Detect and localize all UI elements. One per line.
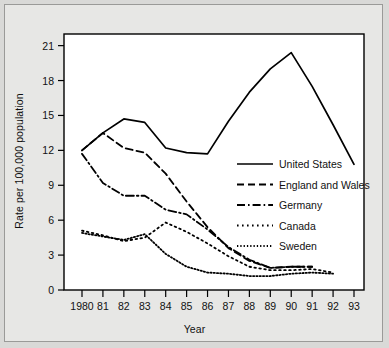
x-tick-label: 87: [223, 300, 235, 312]
x-tick-label: 89: [264, 300, 276, 312]
x-tick-label: 86: [202, 300, 214, 312]
y-axis-ticks: 036912151821: [42, 40, 64, 296]
x-tick-label: 91: [306, 300, 318, 312]
y-tick-label: 9: [48, 179, 54, 191]
x-tick-label: 88: [244, 300, 256, 312]
x-axis-ticks: 198081828384858687888990919293: [70, 290, 360, 312]
legend-label-germany: Germany: [279, 199, 323, 211]
x-tick-label: 83: [139, 300, 151, 312]
x-tick-label: 92: [327, 300, 339, 312]
x-tick-label: 81: [97, 300, 109, 312]
y-tick-label: 18: [42, 75, 54, 87]
x-tick-label: 93: [348, 300, 360, 312]
x-tick-label: 82: [118, 300, 130, 312]
y-tick-label: 0: [48, 284, 54, 296]
legend-label-england-and-wales: England and Wales: [279, 179, 370, 191]
y-tick-label: 21: [42, 40, 54, 52]
x-tick-label: 1980: [70, 300, 94, 312]
y-tick-label: 6: [48, 214, 54, 226]
y-tick-label: 12: [42, 144, 54, 156]
x-tick-label: 85: [181, 300, 193, 312]
x-tick-label: 90: [285, 300, 297, 312]
y-tick-label: 3: [48, 249, 54, 261]
legend-label-sweden: Sweden: [279, 240, 317, 252]
figure-panel: Rate per 100,000 population Year 0369121…: [4, 4, 383, 342]
legend-label-united-states: United States: [279, 158, 342, 170]
y-tick-label: 15: [42, 109, 54, 121]
x-tick-label: 84: [160, 300, 172, 312]
line-chart: 036912151821 198081828384858687888990919…: [5, 5, 384, 343]
legend-label-canada: Canada: [279, 220, 316, 232]
